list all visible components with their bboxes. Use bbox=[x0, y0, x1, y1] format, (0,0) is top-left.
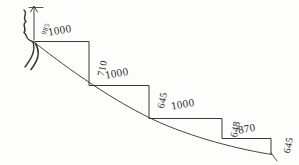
left-tail-path bbox=[25, 42, 34, 67]
bottom-tick-path bbox=[271, 153, 277, 161]
sketch-canvas: 985 1000 710 1000 645 1000 648 870 645 bbox=[0, 0, 299, 165]
top-squiggle-path bbox=[24, 10, 34, 42]
